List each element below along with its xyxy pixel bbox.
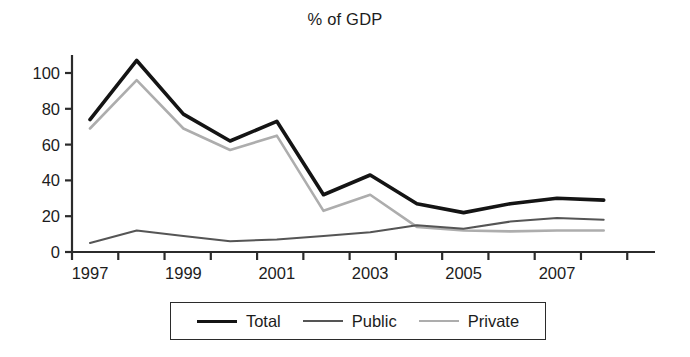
y-tick-label: 20 bbox=[42, 207, 60, 225]
chart-legend: TotalPublicPrivate bbox=[170, 302, 546, 340]
data-series-group bbox=[90, 60, 604, 243]
y-tick-label: 0 bbox=[51, 243, 60, 261]
y-axis: 020406080100 bbox=[32, 55, 72, 261]
y-tick-label: 100 bbox=[32, 64, 60, 82]
chart-figure: % of GDP 020406080100 199719992001200320… bbox=[0, 0, 690, 357]
y-tick-label: 80 bbox=[42, 100, 60, 118]
legend-label: Total bbox=[246, 312, 281, 331]
legend-swatch-total-icon bbox=[197, 320, 237, 323]
series-line-private bbox=[90, 80, 604, 231]
legend-item-public[interactable]: Public bbox=[303, 312, 397, 331]
legend-label: Private bbox=[468, 312, 519, 331]
legend-swatch-public-icon bbox=[303, 320, 343, 322]
x-tick-label: 1997 bbox=[72, 264, 109, 282]
x-tick-label: 2001 bbox=[258, 264, 295, 282]
x-tick-label: 2005 bbox=[445, 264, 482, 282]
series-line-total bbox=[90, 60, 604, 212]
legend-item-total[interactable]: Total bbox=[197, 312, 281, 331]
x-tick-label: 1999 bbox=[165, 264, 202, 282]
y-tick-label: 40 bbox=[42, 171, 60, 189]
legend-label: Public bbox=[352, 312, 397, 331]
x-tick-label: 2003 bbox=[352, 264, 389, 282]
x-tick-label: 2007 bbox=[539, 264, 576, 282]
y-tick-label: 60 bbox=[42, 136, 60, 154]
legend-swatch-private-icon bbox=[419, 320, 459, 322]
x-axis: 199719992001200320052007 bbox=[72, 252, 655, 282]
legend-item-private[interactable]: Private bbox=[419, 312, 519, 331]
